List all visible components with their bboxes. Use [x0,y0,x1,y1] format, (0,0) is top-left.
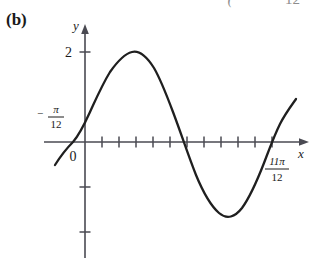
left-fraction-denominator: 12 [51,118,62,130]
origin-label: 0 [70,149,77,164]
y-tick-label-2: 2 [65,45,72,60]
figure-panel: (b) ( 12 [0,0,311,262]
sine-curve [55,52,296,217]
right-fraction-numerator: 11π [269,155,285,167]
x-label-right-eleven-pi-over-12: 11π 12 [265,155,289,183]
minus-sign: − [37,107,43,119]
cropped-number-fragment: 12 [285,0,300,8]
x-axis-arrowhead [299,138,309,146]
x-label-left-negative-pi-over-12: − π 12 [37,103,64,130]
x-axis [44,138,309,146]
y-axis [81,24,89,258]
y-axis-label: y [71,18,79,33]
sine-graph: 2 0 y x − π 12 11π 12 [0,0,311,262]
right-fraction-denominator: 12 [272,171,283,183]
part-label: (b) [6,10,27,30]
y-axis-arrowhead [81,24,89,34]
x-axis-label: x [297,146,304,161]
left-fraction-numerator: π [53,103,59,115]
